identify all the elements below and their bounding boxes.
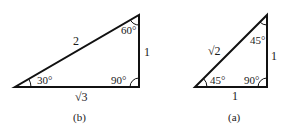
triangle-b: 30° 60° 90° 2 1 √3 (b) xyxy=(15,15,150,124)
angle-arc-90-icon xyxy=(130,78,139,87)
side-label-base: √3 xyxy=(75,90,88,104)
angle-label-left: 45° xyxy=(210,74,225,86)
angle-label-right: 90° xyxy=(244,74,259,86)
figure-caption-b: (b) xyxy=(73,111,86,124)
angle-label-top: 60° xyxy=(121,24,136,36)
side-label-vertical: 1 xyxy=(271,49,277,63)
diagram-canvas: 30° 60° 90° 2 1 √3 (b) 45° 45° 90° √2 1 … xyxy=(0,0,290,132)
figure-caption-a: (a) xyxy=(228,111,241,124)
angle-arc-45-left-icon xyxy=(204,79,208,88)
side-label-vertical: 1 xyxy=(144,45,150,59)
angle-arc-45-top-icon xyxy=(260,22,267,25)
triangle-a: 45° 45° 90° √2 1 1 (a) xyxy=(195,15,277,124)
angle-label-right: 90° xyxy=(111,74,126,86)
side-label-base: 1 xyxy=(232,89,238,103)
angle-label-left: 30° xyxy=(37,74,52,86)
angle-arc-30-icon xyxy=(29,79,31,87)
side-label-hypotenuse: √2 xyxy=(208,44,221,58)
side-label-hypotenuse: 2 xyxy=(73,34,79,48)
angle-label-top: 45° xyxy=(250,34,265,46)
